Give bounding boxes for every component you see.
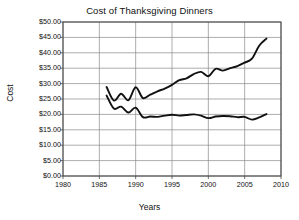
data-line-series-0 [107, 39, 267, 101]
plot-area [0, 0, 299, 220]
thanksgiving-cost-chart: Cost of Thanksgiving Dinners Cost Years … [0, 0, 299, 220]
